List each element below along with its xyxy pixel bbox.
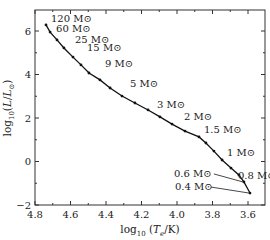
data-point <box>198 136 201 139</box>
x-tick-label: 3.6 <box>240 209 256 220</box>
y-tick-label: 6 <box>25 26 31 37</box>
data-point <box>221 159 224 162</box>
data-point <box>213 150 216 153</box>
x-tick-label: 4.2 <box>134 209 150 220</box>
y-axis-label: log10(L/L⊙) <box>1 80 16 137</box>
mass-label: 3 M⊙ <box>157 99 185 110</box>
x-tick-label: 4.4 <box>98 209 114 220</box>
data-point <box>88 72 91 75</box>
plot-frame <box>35 10 265 205</box>
x-axis-label: log10 (Te/K) <box>120 223 179 238</box>
data-point <box>249 192 252 195</box>
mass-annotations: 120 M⊙60 M⊙25 M⊙15 M⊙9 M⊙5 M⊙3 M⊙2 M⊙1.5… <box>51 13 270 193</box>
mass-label: 15 M⊙ <box>87 42 122 53</box>
data-point <box>121 95 124 98</box>
y-tick-label: 4 <box>25 69 31 80</box>
data-point <box>80 64 83 67</box>
mass-label: 2 M⊙ <box>184 111 212 122</box>
data-point <box>109 87 112 90</box>
x-tick-label: 4.8 <box>27 209 43 220</box>
data-point <box>45 24 48 27</box>
data-point <box>49 31 52 34</box>
mass-label: 60 M⊙ <box>56 23 91 34</box>
y-axis-ticks: −20246 <box>16 26 265 211</box>
data-point <box>159 116 162 119</box>
x-tick-label: 4.0 <box>169 209 185 220</box>
data-point <box>171 123 174 126</box>
data-point <box>72 56 75 59</box>
x-tick-label: 3.8 <box>205 209 221 220</box>
y-tick-label: 0 <box>25 156 31 167</box>
data-point <box>230 167 233 170</box>
data-point <box>134 102 137 105</box>
mass-label: 0.4 M⊙ <box>175 181 213 192</box>
data-point <box>147 109 150 112</box>
data-point <box>205 142 208 145</box>
mass-label: 1 M⊙ <box>227 147 255 158</box>
mass-label: 0.6 M⊙ <box>174 168 212 179</box>
main-sequence-track <box>45 24 252 195</box>
y-tick-label: −2 <box>16 200 31 211</box>
data-point <box>99 79 102 82</box>
mass-label: 5 M⊙ <box>130 78 158 89</box>
y-tick-label: 2 <box>25 113 31 124</box>
mass-label: 9 M⊙ <box>105 58 133 69</box>
mass-label: 0.8 M⊙ <box>238 170 270 181</box>
data-point <box>63 47 66 50</box>
data-point <box>184 130 187 133</box>
mass-label: 1.5 M⊙ <box>204 124 242 135</box>
hr-diagram-chart: 4.84.64.44.24.03.83.6 −20246 120 M⊙60 M⊙… <box>0 0 270 240</box>
data-point <box>56 39 59 42</box>
x-tick-label: 4.6 <box>63 209 79 220</box>
